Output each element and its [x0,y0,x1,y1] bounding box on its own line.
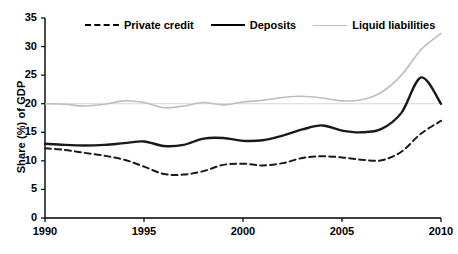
x-tick-label: 2005 [322,225,362,237]
y-tick-label: 20 [11,97,37,109]
x-tick-label: 2000 [223,225,263,237]
x-tick-label: 2010 [421,225,458,237]
y-tick-label: 15 [11,125,37,137]
y-tick-label: 0 [11,211,37,223]
y-tick-label: 25 [11,68,37,80]
x-tick-label: 1995 [124,225,164,237]
x-tick-label: 1990 [25,225,65,237]
y-tick-label: 5 [11,182,37,194]
y-tick-label: 35 [11,11,37,23]
y-tick-label: 10 [11,154,37,166]
y-tick-label: 30 [11,40,37,52]
